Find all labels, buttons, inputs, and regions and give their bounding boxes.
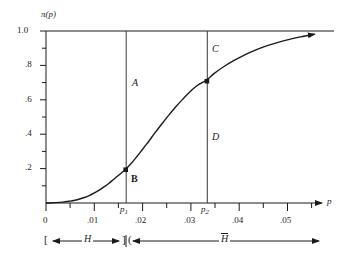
x-tick-label-0.05: .05 xyxy=(280,216,291,225)
marker-point-C xyxy=(205,79,210,84)
pi-curve xyxy=(46,34,315,203)
annotation-D: D xyxy=(212,132,219,142)
bracket-label-H: H xyxy=(82,234,93,244)
x-axis-title: p xyxy=(327,197,332,206)
chart-figure: π(p) 1.0 .8 .6 .4 .2 0 .01 .02 .03 .04 .… xyxy=(0,0,341,257)
y-axis-major-ticks xyxy=(40,31,46,169)
vline-label-p2-subscript: 2 xyxy=(206,208,210,216)
annotation-B: B xyxy=(131,174,138,184)
y-tick-label-0.8: .8 xyxy=(25,60,32,69)
y-tick-label-1.0: 1.0 xyxy=(17,26,28,35)
bracket-label-Hbar-text: H xyxy=(221,233,228,244)
x-tick-label-0.02: .02 xyxy=(135,216,146,225)
vline-label-p1: p1 xyxy=(120,205,128,216)
y-tick-label-0.2: .2 xyxy=(25,163,32,172)
x-tick-label-0.03: .03 xyxy=(184,216,195,225)
y-axis-minor-ticks xyxy=(42,48,46,186)
vline-label-p2: p2 xyxy=(201,205,209,216)
y-tick-label-0.4: .4 xyxy=(25,129,32,138)
x-tick-label-0: 0 xyxy=(43,216,48,225)
bracket-label-Hbar-inner: H xyxy=(221,234,228,244)
y-tick-label-0.6: .6 xyxy=(25,95,32,104)
vline-label-p1-subscript: 1 xyxy=(125,208,129,216)
marker-point-B xyxy=(123,167,128,172)
bracket-label-Hbar: H xyxy=(219,234,230,244)
overbar-rule xyxy=(221,233,228,234)
x-tick-label-0.01: .01 xyxy=(87,216,98,225)
y-axis-title: π(p) xyxy=(41,10,56,19)
x-tick-label-0.04: .04 xyxy=(232,216,243,225)
annotation-A: A xyxy=(132,78,138,88)
bracket-left-glyph: [ xyxy=(44,234,48,245)
bracket-mid-open-glyph: ( xyxy=(128,234,132,245)
bracket-mid-close-glyph: ] xyxy=(122,234,126,245)
annotation-C: C xyxy=(212,44,219,54)
